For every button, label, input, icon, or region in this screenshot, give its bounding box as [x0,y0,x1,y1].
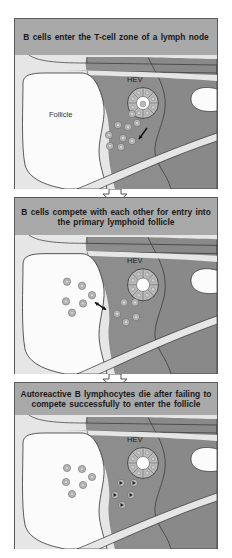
endothelial-nucleus [151,457,155,461]
endothelial-nucleus [151,465,155,469]
panel-3-header: Autoreactive B lymphocytes die after fai… [15,383,217,416]
endothelial-nucleus [131,287,135,291]
panel-1-header: B cells enter the T-cell zone of a lymph… [15,19,217,56]
endothelial-nucleus [145,471,149,475]
endothelial-nucleus [131,97,135,101]
endothelial-nucleus [151,279,155,283]
panel-1: B cells enter the T-cell zone of a lymph… [14,18,218,189]
endothelial-nucleus [131,279,135,283]
lymph-node-scene: HEV [15,415,217,549]
panel-1-title: B cells enter the T-cell zone of a lymph… [19,32,212,42]
panel-1-scene: HEVFollicle [15,55,217,189]
hev-label: HEV [127,435,142,444]
endothelial-nucleus [145,293,149,297]
b-cell [140,101,146,107]
endothelial-nucleus [137,91,141,95]
endothelial-nucleus [137,111,141,115]
endothelial-nucleus [151,105,155,109]
follicle [23,433,108,549]
endothelial-nucleus [145,272,149,276]
endothelial-nucleus [137,471,141,475]
lymph-node-scene: HEV [15,235,217,374]
hev-lumen [137,457,150,470]
endothelial-nucleus [131,465,135,469]
follicle [23,73,108,189]
panel-2-title: B cells compete with each other for entr… [15,207,217,227]
panel-3: Autoreactive B lymphocytes die after fai… [14,382,218,549]
endothelial-nucleus [145,91,149,95]
endothelial-nucleus [137,293,141,297]
hev-lumen [137,278,150,291]
follicle-label: Follicle [49,110,72,119]
panel-2-header: B cells compete with each other for entr… [15,198,217,236]
endothelial-nucleus [131,105,135,109]
endothelial-nucleus [131,457,135,461]
endothelial-nucleus [151,287,155,291]
endothelial-nucleus [137,272,141,276]
follicle [23,254,108,374]
endothelial-nucleus [145,111,149,115]
hev-label: HEV [127,75,142,84]
hev-label: HEV [127,256,143,265]
panel-2: B cells compete with each other for entr… [14,197,218,374]
panel-2-scene: HEV [15,235,217,374]
panel-3-scene: HEV [15,415,217,549]
panel-3-title: Autoreactive B lymphocytes die after fai… [15,389,217,409]
endothelial-nucleus [145,451,149,455]
endothelial-nucleus [137,451,141,455]
lymph-node-scene: HEVFollicle [15,55,217,189]
endothelial-nucleus [151,97,155,101]
